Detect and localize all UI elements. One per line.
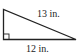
base-label: 12 in. bbox=[26, 43, 49, 54]
right-triangle-diagram: 13 in. 12 in. bbox=[0, 0, 79, 54]
hypotenuse-label: 13 in. bbox=[37, 8, 60, 19]
right-angle-marker-icon bbox=[4, 34, 10, 40]
